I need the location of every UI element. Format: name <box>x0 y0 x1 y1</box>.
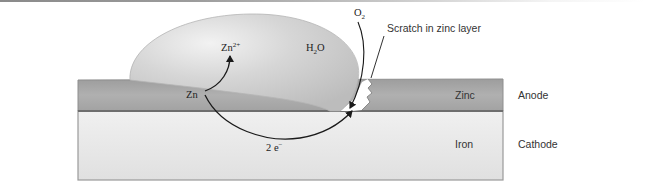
scratch-label: Scratch in zinc layer <box>387 22 481 34</box>
zn-metal-label: Zn <box>186 89 198 100</box>
cathode-label: Cathode <box>518 138 558 150</box>
iron-layer-label: Iron <box>455 138 473 150</box>
anode-label: Anode <box>518 89 549 101</box>
iron-layer <box>78 111 503 180</box>
zinc-layer-label: Zinc <box>455 89 475 101</box>
galvanic-corrosion-diagram: Zn2+ H2O O2 Zn 2 e− Scratch in zinc laye… <box>0 0 646 190</box>
oxygen-label: O2 <box>354 7 366 21</box>
scratch-leader-line <box>371 36 384 78</box>
